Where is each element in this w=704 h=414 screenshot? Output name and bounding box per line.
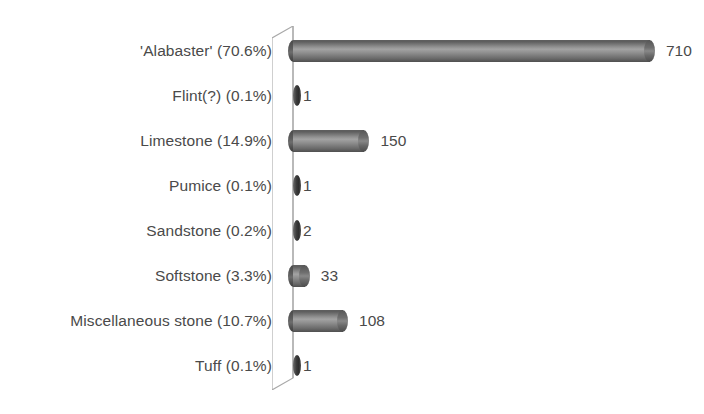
bar-cylinder: [293, 310, 348, 332]
bar-row: 1: [0, 163, 704, 208]
bar-body: [293, 40, 650, 62]
value-label: 2: [303, 222, 312, 240]
bar-cap-right: [358, 130, 369, 152]
bar-cylinder: [293, 355, 301, 377]
bar-row: 108: [0, 298, 704, 343]
bar-row: 1: [0, 73, 704, 118]
bar-row: 2: [0, 208, 704, 253]
bar-cap-right: [299, 265, 310, 287]
bar-cylinder: [293, 265, 310, 287]
bar-body: [293, 130, 364, 152]
bar-cap-right: [293, 355, 301, 376]
value-label: 1: [303, 87, 312, 105]
bar-cap-right: [293, 220, 301, 241]
bar-cylinder: [293, 130, 369, 152]
value-label: 150: [380, 132, 406, 150]
value-label: 1: [303, 357, 312, 375]
value-label: 108: [359, 312, 385, 330]
bar-cap-right: [644, 40, 655, 62]
bar-cylinder: [293, 175, 301, 197]
bar-row: 710: [0, 28, 704, 73]
bar-chart: 'Alabaster' (70.6%) Flint(?) (0.1%) Lime…: [0, 0, 704, 414]
bar-cap-right: [293, 85, 301, 106]
bar-cylinder: [293, 40, 655, 62]
bar-cylinder: [293, 85, 301, 107]
value-label: 33: [321, 267, 338, 285]
bar-row: 1: [0, 343, 704, 388]
bar-row: 33: [0, 253, 704, 298]
bars-layer: 710 1 150 1: [0, 28, 704, 388]
value-label: 710: [666, 42, 692, 60]
bar-cap-right: [337, 310, 348, 332]
bar-row: 150: [0, 118, 704, 163]
bar-cap-right: [293, 175, 301, 196]
value-label: 1: [303, 177, 312, 195]
bar-body: [293, 310, 343, 332]
bar-cylinder: [293, 220, 301, 242]
